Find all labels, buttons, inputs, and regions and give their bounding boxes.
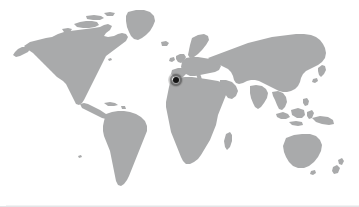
region-scandinavia [188, 34, 209, 58]
region-southeast-asia [272, 91, 287, 110]
region-indonesia-borneo [291, 108, 305, 118]
region-iceland [161, 41, 169, 46]
region-indonesia-sulawesi [307, 110, 314, 119]
region-australia [283, 134, 322, 168]
region-new-zealand-south [332, 165, 340, 174]
region-caribbean [104, 102, 118, 106]
region-canadian-arctic [74, 21, 99, 28]
world-map-svg [0, 0, 359, 203]
region-iberia [171, 68, 186, 78]
region-tasmania [310, 170, 316, 175]
region-philippines [303, 98, 309, 106]
region-arctic-island-a [86, 15, 104, 20]
region-africa [166, 77, 227, 164]
region-indonesia-java [289, 121, 303, 126]
region-arctic-island-c [104, 12, 115, 16]
region-new-guinea [312, 116, 334, 125]
region-ireland [169, 57, 175, 62]
region-central-america [80, 103, 108, 119]
region-japan [318, 65, 326, 77]
region-alaska [13, 47, 30, 57]
world-map[interactable] [0, 0, 359, 203]
map-panel: Location marker [0, 0, 359, 207]
region-speck-atlantic [78, 155, 82, 158]
region-speck-pacific [108, 58, 112, 61]
region-north-america [24, 24, 128, 105]
region-caribbean-small [121, 106, 126, 109]
region-greenland [126, 10, 155, 40]
region-madagascar [224, 132, 232, 150]
panel-bottom-rule [0, 206, 359, 207]
region-japan-south [312, 78, 318, 83]
region-indonesia-sumatra [276, 112, 290, 119]
region-new-zealand-north [338, 158, 344, 165]
region-south-america [103, 111, 147, 186]
region-india [250, 85, 268, 109]
